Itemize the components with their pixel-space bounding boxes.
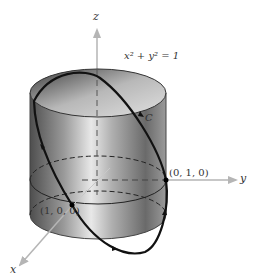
- curve-label: C: [145, 112, 153, 123]
- x-axis-label: x: [10, 263, 16, 276]
- z-axis-label: z: [93, 10, 99, 23]
- point-010: [164, 178, 169, 183]
- y-axis-label: y: [240, 172, 246, 185]
- cylinder-diagram: [0, 0, 262, 280]
- point-label-010: (0, 1, 0): [169, 167, 209, 178]
- equation-label: x² + y² = 1: [124, 50, 179, 61]
- point-label-100: (1, 0, 0): [40, 205, 80, 216]
